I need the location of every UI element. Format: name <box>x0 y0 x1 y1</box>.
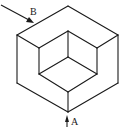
edge-notch-left <box>39 57 68 74</box>
edge-rim-right <box>97 35 118 48</box>
edge-outer-top-left <box>17 6 68 35</box>
label-a: A <box>71 116 79 127</box>
arrow-b-shaft <box>1 5 29 20</box>
arrow-a-head-icon <box>65 115 69 122</box>
view-arrow-b: B <box>1 5 37 23</box>
edge-rim-left <box>17 35 39 48</box>
edge-inner-top-left <box>39 31 68 48</box>
edge-notch-right <box>68 57 97 74</box>
view-arrow-a: A <box>65 115 79 127</box>
edge-inner-bottom-left <box>39 74 68 92</box>
edge-inner-bottom-right <box>68 74 97 92</box>
arrow-b-head-icon <box>26 17 34 23</box>
isometric-diagram: B A <box>0 0 128 133</box>
label-b: B <box>30 6 37 17</box>
edge-outer-top-right <box>68 6 118 35</box>
notch-interior <box>39 31 97 74</box>
edge-inner-top-right <box>68 31 97 48</box>
